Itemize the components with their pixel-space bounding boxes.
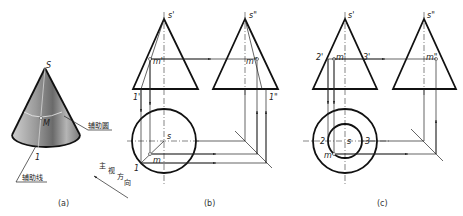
label-c-front-right: 3' (363, 53, 370, 62)
label-aux-line: 辅助线 (22, 173, 43, 182)
label-c-top-point: m (324, 151, 332, 160)
view-dir-char-3: 方 (117, 172, 124, 181)
label-c-top-center: s (347, 137, 351, 146)
label-point-M: M (43, 119, 50, 128)
label-aux-circle: 辅助圆 (88, 121, 109, 130)
view-dir-char-2: 视 (108, 166, 115, 175)
label-c-side-apex: s" (427, 11, 435, 20)
label-b-front-base: 1' (133, 93, 140, 102)
label-b-front-point: m' (153, 57, 163, 66)
figure-b-projections (127, 12, 278, 185)
label-apex-S: S (46, 61, 51, 70)
label-c-top-left: 2 (320, 137, 325, 146)
caption-c: (c) (377, 199, 388, 208)
caption-a: (a) (58, 199, 69, 208)
diagram-svg: S M 1 辅助圆 辅助线 主 视 方 向 (a) (0, 0, 463, 216)
label-c-side-point: m" (426, 53, 437, 62)
label-c-top-right: 3 (365, 137, 370, 146)
cone-projection-diagram: S M 1 辅助圆 辅助线 主 视 方 向 (a) (0, 0, 463, 216)
label-b-side-point: m" (246, 57, 257, 66)
caption-b: (b) (204, 199, 215, 208)
label-b-top-base: 1 (134, 164, 139, 173)
label-b-top-point: m (153, 156, 161, 165)
label-b-front-apex: s' (168, 11, 174, 20)
label-b-side-apex: s" (249, 11, 257, 20)
label-c-front-apex: s' (348, 11, 354, 20)
label-base-point-1: 1 (35, 153, 40, 162)
view-dir-char-4: 向 (124, 178, 131, 187)
label-c-front-point: m' (336, 53, 346, 62)
view-dir-char-1: 主 (99, 161, 106, 170)
label-b-top-center: s (167, 132, 171, 141)
label-c-front-left: 2' (316, 53, 323, 62)
label-b-side-base: 1" (269, 93, 278, 102)
